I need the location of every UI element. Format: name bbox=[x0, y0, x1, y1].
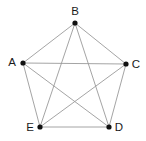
graph-edge-ab bbox=[23, 23, 75, 63]
graph-edge-bc bbox=[75, 23, 126, 64]
graph-edge-ce bbox=[40, 64, 126, 127]
edge-layer bbox=[23, 23, 126, 127]
graph-vertex-d bbox=[106, 124, 111, 129]
graph-vertex-label-c: C bbox=[132, 58, 140, 70]
graph-vertex-label-a: A bbox=[8, 56, 16, 68]
graph-vertex-label-d: D bbox=[115, 121, 123, 133]
graph-edge-cd bbox=[109, 64, 126, 127]
graph-vertex-label-e: E bbox=[26, 121, 34, 133]
graph-canvas: ABCDE bbox=[0, 0, 146, 141]
graph-edge-be bbox=[40, 23, 75, 127]
graph-edge-ad bbox=[23, 63, 109, 127]
graph-vertex-b bbox=[72, 20, 77, 25]
graph-edge-ea bbox=[23, 63, 40, 127]
graph-edge-ac bbox=[23, 63, 126, 64]
graph-vertex-e bbox=[37, 124, 42, 129]
graph-vertex-c bbox=[123, 61, 128, 66]
graph-figure: ABCDE bbox=[0, 0, 146, 141]
graph-vertex-label-b: B bbox=[71, 5, 79, 17]
graph-vertex-a bbox=[20, 60, 25, 65]
graph-edge-bd bbox=[75, 23, 109, 127]
